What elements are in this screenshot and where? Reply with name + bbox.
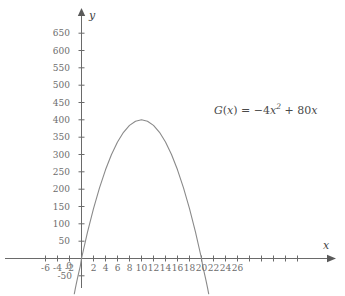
- equation-annotation: G(x) = −4x2 + 80x: [214, 103, 317, 116]
- y-tick-label-600: 600: [38, 47, 70, 56]
- parabola-plot: [0, 0, 345, 296]
- x-axis-arrow: [327, 255, 336, 262]
- chart-figure: 650 600 550 500 450 400 350 300 250 200 …: [0, 0, 345, 296]
- y-tick-label-300: 300: [38, 151, 70, 160]
- y-axis-arrow: [78, 8, 85, 16]
- y-tick-label-250: 250: [38, 168, 70, 177]
- y-tick-label-100: 100: [38, 220, 70, 229]
- y-tick-label-550: 550: [38, 64, 70, 73]
- y-tick-label-500: 500: [38, 81, 70, 90]
- y-tick-label-50: 50: [38, 237, 70, 246]
- x-tick-label-minus-2: -2: [58, 264, 81, 273]
- y-tick-label-200: 200: [38, 185, 70, 194]
- y-tick-label-350: 350: [38, 133, 70, 142]
- x-tick-label-26: 26: [226, 264, 249, 273]
- y-tick-label-150: 150: [38, 203, 70, 212]
- y-tick-label-650: 650: [38, 29, 70, 38]
- x-axis-title: x: [323, 240, 329, 251]
- y-tick-label-450: 450: [38, 99, 70, 108]
- y-tick-label-400: 400: [38, 116, 70, 125]
- y-axis-title: y: [89, 10, 95, 21]
